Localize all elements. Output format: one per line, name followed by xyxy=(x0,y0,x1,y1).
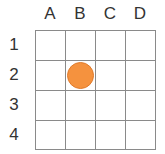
orange-circle-piece xyxy=(67,62,94,89)
row-label-4: 4 xyxy=(4,120,24,150)
column-label-d: D xyxy=(125,4,155,24)
grid-line xyxy=(35,60,156,61)
column-label-c: C xyxy=(95,4,125,24)
column-label-b: B xyxy=(65,4,95,24)
grid-board xyxy=(35,30,155,150)
row-label-3: 3 xyxy=(4,90,24,120)
grid-line xyxy=(35,30,156,31)
grid-line xyxy=(35,149,156,150)
grid-line xyxy=(35,120,156,121)
grid-line xyxy=(35,90,156,91)
column-label-a: A xyxy=(35,4,65,24)
row-label-1: 1 xyxy=(4,30,24,60)
row-label-2: 2 xyxy=(4,60,24,90)
